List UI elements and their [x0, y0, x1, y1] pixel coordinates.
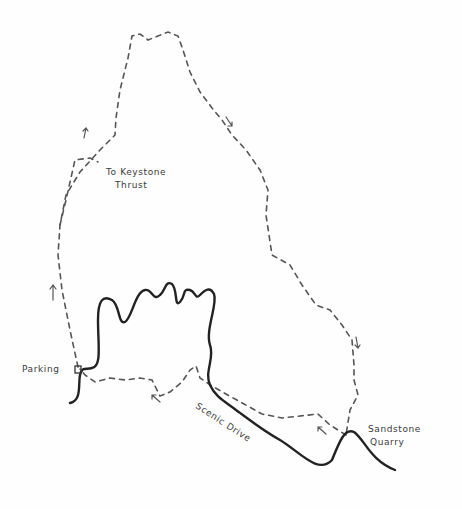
arrow-down-icon — [355, 337, 360, 348]
parking-label: Parking — [22, 363, 60, 375]
keystone-label-line2: Thrust — [115, 179, 147, 191]
trail-map: To Keystone Thrust Parking Scenic Drive … — [0, 0, 462, 509]
scenic-drive-road — [70, 283, 395, 470]
arrow-down-right-icon — [226, 117, 232, 126]
trail-spur-keystone — [60, 158, 98, 225]
arrow-up-left-icon — [152, 395, 160, 402]
arrow-up-icon — [50, 285, 56, 300]
arrow-up-left-icon — [83, 128, 88, 138]
quarry-label-line1: Sandstone — [368, 423, 421, 435]
arrow-up-left-icon — [318, 427, 326, 434]
keystone-label-line1: To Keystone — [106, 166, 166, 178]
trail-return — [80, 366, 346, 435]
quarry-label-line2: Quarry — [370, 436, 404, 448]
